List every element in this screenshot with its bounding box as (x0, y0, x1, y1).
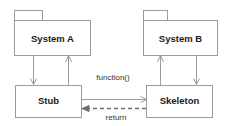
edge-skeleton-to-system-b[interactable] (158, 56, 164, 86)
edge-system-a-to-stub[interactable] (31, 56, 37, 85)
edge-skeleton-to-stub[interactable]: return (82, 106, 146, 123)
edge-stub-to-skeleton[interactable]: function() (82, 73, 147, 102)
node-stub[interactable]: Stub (16, 86, 82, 118)
uml-diagram-canvas: System A System B Stub Skeleton (0, 0, 228, 126)
stub-label: Stub (38, 95, 59, 106)
system-b-package-tab (144, 11, 168, 21)
node-system-b[interactable]: System B (144, 11, 218, 56)
function-call-label: function() (96, 73, 130, 82)
diagram-svg: System A System B Stub Skeleton (0, 0, 228, 126)
return-label: return (106, 113, 127, 122)
return-arrowhead (82, 106, 89, 112)
node-system-a[interactable]: System A (15, 11, 91, 56)
edge-stub-to-system-a[interactable] (66, 56, 72, 86)
system-a-package-tab (15, 11, 43, 21)
system-b-label: System B (159, 33, 202, 44)
edge-system-b-to-skeleton[interactable] (194, 56, 200, 85)
skeleton-label: Skeleton (160, 95, 200, 106)
node-skeleton[interactable]: Skeleton (147, 86, 213, 118)
system-a-label: System A (31, 33, 74, 44)
